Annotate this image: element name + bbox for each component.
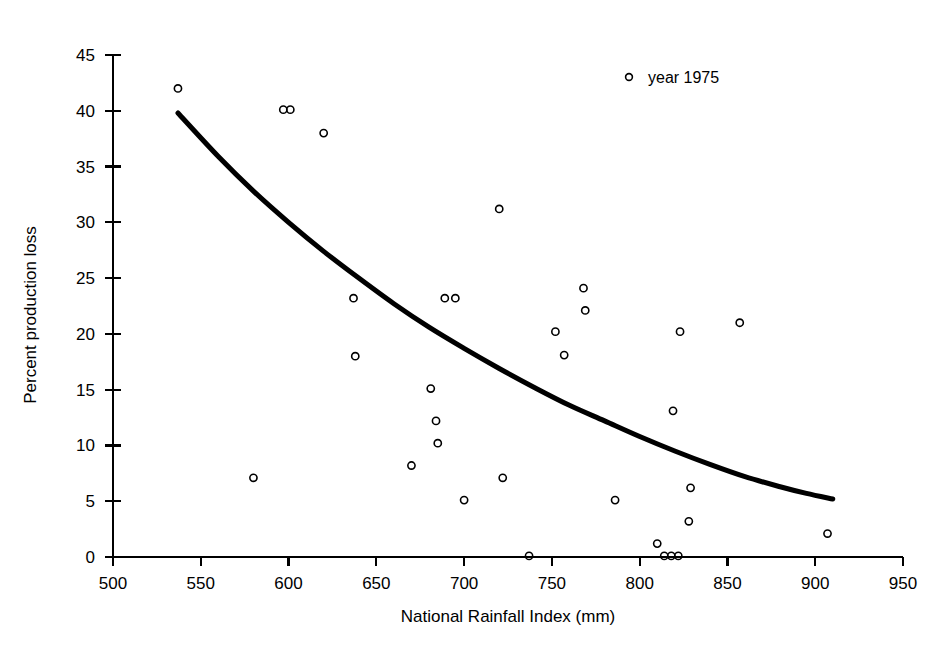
y-tick-label: 25: [76, 269, 95, 288]
x-tick-label: 800: [625, 574, 653, 593]
data-point: [676, 328, 683, 335]
data-point: [461, 497, 468, 504]
trend-curve: [178, 113, 833, 499]
x-tick-label: 900: [801, 574, 829, 593]
legend-marker-icon: [626, 74, 633, 81]
y-tick-label: 20: [76, 325, 95, 344]
x-tick-label: 500: [99, 574, 127, 593]
y-axis-title: Percent production loss: [21, 226, 40, 404]
y-tick-label: 40: [76, 102, 95, 121]
data-point: [824, 530, 831, 537]
x-axis-ticks: 500550600650700750800850900950: [99, 557, 917, 593]
data-point: [675, 552, 682, 559]
y-axis-ticks: 051015202530354045: [76, 46, 121, 567]
x-tick-label: 550: [187, 574, 215, 593]
x-tick-label: 850: [713, 574, 741, 593]
y-tick-label: 10: [76, 436, 95, 455]
data-point: [668, 552, 675, 559]
data-point: [525, 552, 532, 559]
data-point: [174, 85, 181, 92]
data-point: [582, 307, 589, 314]
y-tick-label: 15: [76, 381, 95, 400]
x-axis-title: National Rainfall Index (mm): [401, 607, 615, 626]
y-tick-label: 35: [76, 158, 95, 177]
data-point: [552, 328, 559, 335]
x-tick-label: 950: [889, 574, 917, 593]
data-point: [432, 417, 439, 424]
legend-entry-label: year 1975: [648, 69, 719, 86]
data-point: [250, 474, 257, 481]
y-tick-label: 0: [86, 548, 95, 567]
data-point: [434, 440, 441, 447]
data-point: [352, 353, 359, 360]
x-tick-label: 700: [450, 574, 478, 593]
x-tick-label: 750: [538, 574, 566, 593]
data-point: [685, 518, 692, 525]
data-point: [669, 407, 676, 414]
data-point-markers: [174, 85, 831, 560]
data-point: [580, 285, 587, 292]
data-point: [441, 295, 448, 302]
data-point: [350, 295, 357, 302]
data-point: [427, 385, 434, 392]
legend: year 1975: [626, 69, 720, 86]
x-tick-label: 600: [274, 574, 302, 593]
data-point: [611, 497, 618, 504]
chart-container: 051015202530354045 500550600650700750800…: [0, 0, 927, 650]
data-point: [452, 295, 459, 302]
data-point: [287, 106, 294, 113]
data-point: [661, 552, 668, 559]
data-point: [736, 319, 743, 326]
scatter-plot: 051015202530354045 500550600650700750800…: [0, 0, 927, 650]
data-point: [280, 106, 287, 113]
data-point: [496, 205, 503, 212]
y-tick-label: 45: [76, 46, 95, 65]
y-tick-label: 5: [86, 492, 95, 511]
data-point: [561, 351, 568, 358]
data-point: [408, 462, 415, 469]
data-point: [320, 129, 327, 136]
data-point: [499, 474, 506, 481]
y-tick-label: 30: [76, 213, 95, 232]
x-tick-label: 650: [362, 574, 390, 593]
data-point: [687, 484, 694, 491]
data-point: [654, 540, 661, 547]
